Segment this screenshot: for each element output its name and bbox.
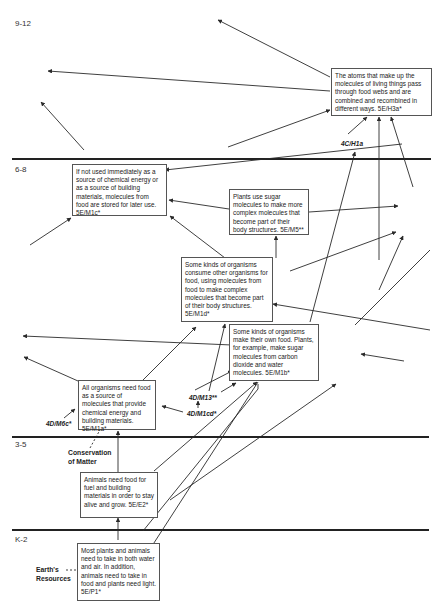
concept-box-5e-h3a: The atoms that make up the molecules of … — [331, 68, 432, 116]
label-conservation-of-matter: Conservation of Matter — [68, 449, 116, 466]
concept-box-5e-m1a: All organisms need food as a source of m… — [78, 380, 156, 430]
band-label-9-12: 9-12 — [15, 19, 31, 28]
concept-box-5e-m1b: Some kinds of organisms make their own f… — [229, 324, 319, 381]
band-label-k-2: K-2 — [15, 535, 27, 544]
reference-4d-m1cd: 4D/M1cd* — [187, 410, 216, 417]
reference-4c-h1a: 4C/H1a — [341, 140, 363, 147]
concept-box-5e-e2: Animals need food for fuel and building … — [80, 472, 158, 518]
concept-box-5e-m1d: Some kinds of organisms consume other or… — [181, 257, 273, 322]
band-label-6-8: 6-8 — [15, 165, 27, 174]
reference-4d-m13: 4D/M13** — [189, 394, 217, 401]
label-earths-resources: Earth's Resources — [36, 566, 70, 583]
reference-4d-m6c: 4D/M6c* — [46, 420, 71, 427]
concept-box-5e-m5: Plants use sugar molecules to make more … — [229, 189, 309, 235]
band-label-3-5: 3-5 — [15, 440, 27, 449]
concept-box-5e-m1c: If not used immediately as a source of c… — [72, 164, 167, 216]
concept-box-5e-p1: Most plants and animals need to take in … — [77, 543, 160, 601]
